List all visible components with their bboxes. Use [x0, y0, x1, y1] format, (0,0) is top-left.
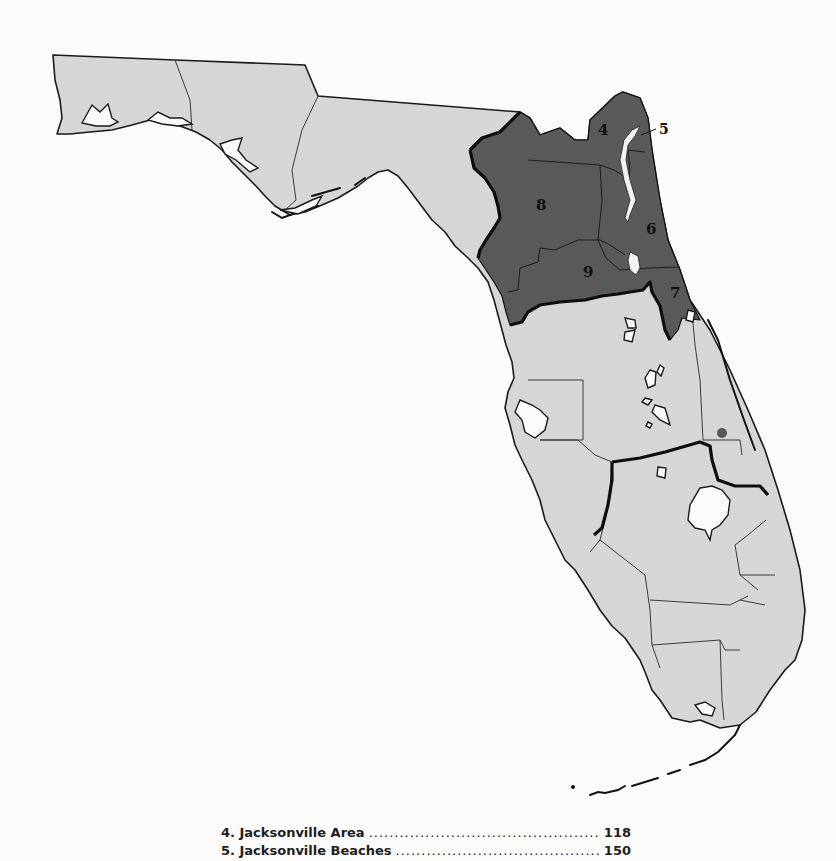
leader-dots	[369, 824, 600, 842]
region-label-5: 5	[659, 121, 669, 137]
dry-tortugas	[571, 785, 575, 789]
region-label-4: 4	[598, 121, 608, 139]
county-seat-dot	[717, 428, 727, 438]
region-label-8: 8	[536, 196, 546, 214]
legend-item-jacksonville-beaches[interactable]: 5. Jacksonville Beaches 150	[221, 842, 631, 860]
legend-item-jacksonville-area[interactable]: 4. Jacksonville Area 118	[221, 824, 631, 842]
region-legend: 4. Jacksonville Area 118 5. Jacksonville…	[221, 824, 631, 860]
legend-item-name: 5. Jacksonville Beaches	[221, 842, 392, 860]
leader-dots	[396, 842, 600, 860]
region-label-9: 9	[583, 263, 593, 281]
region-label-6: 6	[646, 220, 656, 238]
florida-map: 4 5 6 7 8 9	[0, 0, 836, 800]
region-label-7: 7	[670, 284, 680, 302]
legend-item-page: 150	[604, 842, 631, 860]
lake-7	[646, 422, 652, 428]
lake-9	[686, 310, 695, 322]
panhandle-land	[53, 55, 805, 728]
florida-keys	[590, 725, 740, 795]
legend-item-name: 4. Jacksonville Area	[221, 824, 365, 842]
lake-8	[657, 467, 666, 478]
legend-item-page: 118	[604, 824, 631, 842]
